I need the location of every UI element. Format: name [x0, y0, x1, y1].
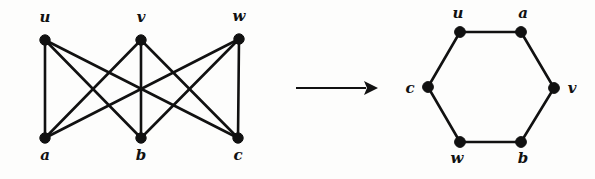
bipartite-node-b	[136, 133, 146, 143]
hexagon-node-u	[455, 27, 466, 38]
hexagon-node-w	[455, 137, 466, 148]
hexagon-node-v	[549, 83, 560, 94]
bipartite-vertex-label-b: b	[136, 146, 147, 164]
bipartite-vertex-label-c: c	[233, 146, 242, 164]
transformation-arrow	[296, 81, 378, 95]
bipartite-node-u	[40, 35, 50, 45]
hexagon-node-b	[516, 137, 527, 148]
hexagon-vertex-label-v: v	[568, 79, 577, 97]
hexagon-vertex-label-w: w	[451, 149, 465, 167]
bipartite-edge-group	[45, 39, 239, 138]
hexagon-edge-group	[428, 32, 554, 142]
hexagon-vertex-label-u: u	[453, 4, 464, 22]
bipartite-node-w	[234, 34, 244, 44]
graph-transformation-figure: uvwabc uavbwc	[0, 0, 595, 179]
hexagon-vertex-label-b: b	[518, 149, 529, 167]
hexagon-node-c	[423, 82, 434, 93]
hexagon-edge-c-u	[428, 32, 460, 87]
bipartite-edge-w-c	[238, 39, 239, 138]
figure-canvas: uvwabc uavbwc	[0, 0, 595, 179]
hexagon-vertex-label-c: c	[405, 79, 414, 97]
bipartite-vertex-label-w: w	[233, 7, 247, 25]
hexagon-edge-a-v	[521, 32, 554, 88]
hexagon-node-a	[516, 27, 527, 38]
bipartite-vertex-label-a: a	[40, 146, 50, 164]
hexagon-vertex-label-a: a	[518, 4, 528, 22]
hexagon-edge-w-c	[428, 87, 460, 142]
bipartite-vertex-label-u: u	[40, 8, 51, 26]
hexagon-edge-v-b	[521, 88, 554, 142]
bipartite-node-a	[40, 133, 50, 143]
bipartite-vertex-label-v: v	[137, 8, 146, 26]
bipartite-node-v	[136, 35, 146, 45]
right-arrow-icon	[364, 81, 378, 95]
bipartite-node-c	[233, 133, 243, 143]
hexagon-node-group	[423, 27, 560, 148]
